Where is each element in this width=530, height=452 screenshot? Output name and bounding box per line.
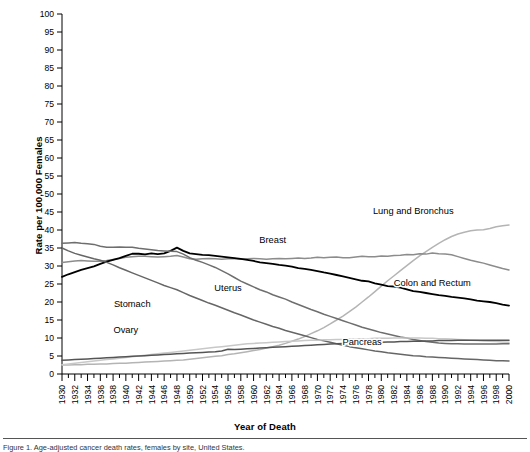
x-tick-label: 1976 (351, 385, 361, 404)
x-tick-label: 1962 (262, 385, 272, 404)
y-tick-label: 20 (44, 297, 54, 307)
x-tick-label: 1948 (172, 385, 182, 404)
x-tick-label: 1942 (134, 385, 144, 404)
x-tick-label: 1944 (147, 385, 157, 404)
x-tick-label: 1978 (364, 385, 374, 404)
series-line-ovary (62, 338, 509, 365)
figure-caption: Figure 1. Age-adjusted cancer death rate… (3, 443, 527, 452)
x-tick-label: 1982 (389, 385, 399, 404)
y-tick-label: 10 (44, 333, 54, 343)
x-tick-label: 1956 (223, 385, 233, 404)
x-tick-label: 1936 (96, 385, 106, 404)
x-axis-title: Year of Death (0, 421, 530, 432)
x-tick-label: 1980 (376, 385, 386, 404)
y-axis-title: Rate per 100,000 Females (33, 96, 44, 296)
x-tick-label: 1934 (83, 385, 93, 404)
y-tick-label: 40 (44, 225, 54, 235)
x-tick-label: 1958 (236, 385, 246, 404)
x-tick-label: 1950 (185, 385, 195, 404)
x-tick-label: 1992 (453, 385, 463, 404)
x-tick-label: 1966 (287, 385, 297, 404)
x-tick-label: 1964 (274, 385, 284, 404)
y-tick-label: 50 (44, 189, 54, 199)
x-tick-label: 1990 (440, 385, 450, 404)
y-tick-label: 25 (44, 279, 54, 289)
x-tick-label: 1986 (415, 385, 425, 404)
series-label-stomach: Stomach (114, 299, 151, 309)
y-tick-label: 5 (49, 351, 54, 361)
y-tick-label: 45 (44, 207, 54, 217)
x-tick-label: 1932 (70, 385, 80, 404)
x-tick-label: 1970 (313, 385, 323, 404)
y-tick-label: 75 (44, 99, 54, 109)
series-label-lung-and-bronchus: Lung and Bronchus (373, 206, 454, 216)
x-tick-label: 1974 (338, 385, 348, 404)
y-tick-label: 95 (44, 27, 54, 37)
x-tick-label: 1994 (466, 385, 476, 404)
y-tick-label: 100 (40, 9, 55, 19)
x-tick-label: 1998 (491, 385, 501, 404)
x-tick-label: 1954 (210, 385, 220, 404)
x-tick-label: 1988 (428, 385, 438, 404)
series-label-breast: Breast (259, 235, 286, 245)
y-tick-label: 0 (49, 369, 54, 379)
y-tick-label: 70 (44, 117, 54, 127)
x-tick-label: 1946 (159, 385, 169, 404)
x-tick-label: 1952 (198, 385, 208, 404)
x-tick-label: 1930 (57, 385, 67, 404)
series-label-ovary: Ovary (113, 325, 138, 335)
y-tick-label: 60 (44, 153, 54, 163)
series-label-colon-and-rectum: Colon and Rectum (394, 278, 471, 288)
y-tick-label: 15 (44, 315, 54, 325)
x-tick-label: 1968 (300, 385, 310, 404)
y-tick-label: 35 (44, 243, 54, 253)
series-label-pancreas: Pancreas (342, 337, 382, 347)
y-tick-label: 65 (44, 135, 54, 145)
x-tick-label: 1984 (402, 385, 412, 404)
y-tick-label: 90 (44, 45, 54, 55)
series-label-uterus: Uterus (214, 283, 242, 293)
cancer-mortality-chart: 0510152025303540455055606570758085909510… (0, 0, 530, 452)
x-tick-label: 1996 (479, 385, 489, 404)
x-tick-label: 1940 (121, 385, 131, 404)
y-tick-label: 85 (44, 63, 54, 73)
footer-divider (3, 438, 527, 439)
x-tick-label: 2000 (504, 385, 514, 404)
x-tick-label: 1938 (108, 385, 118, 404)
y-tick-label: 30 (44, 261, 54, 271)
y-tick-label: 55 (44, 171, 54, 181)
chart-svg: 0510152025303540455055606570758085909510… (0, 0, 530, 452)
x-tick-label: 1960 (249, 385, 259, 404)
y-tick-label: 80 (44, 81, 54, 91)
x-tick-label: 1972 (325, 385, 335, 404)
